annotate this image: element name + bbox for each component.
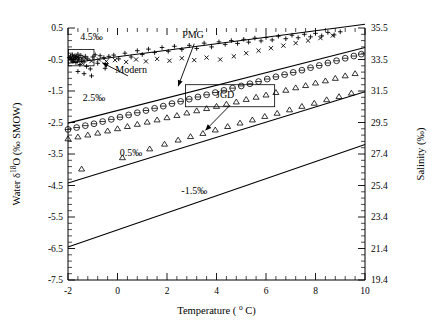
mixing-line-1 <box>68 48 365 124</box>
xy-plot: 4.5‰2.5‰0.5‰-1.5‰PMGJGDModern -20246810 … <box>0 0 434 326</box>
y2-axis-title: Salinity (‰) <box>415 127 427 180</box>
mixing-line-2 <box>68 92 365 183</box>
svg-text:4: 4 <box>214 286 219 296</box>
y2-tick-labels: 35.533.531.529.527.425.423.421.419.4 <box>371 23 388 285</box>
svg-text:25.4: 25.4 <box>371 181 388 191</box>
label-pmg: PMG <box>182 29 204 40</box>
mixing-lines <box>68 24 365 247</box>
label-jgd: JGD <box>216 89 234 100</box>
series-modern <box>67 29 343 78</box>
x-tick-labels: -20246810 <box>64 286 370 296</box>
svg-text:23.4: 23.4 <box>371 212 388 222</box>
svg-text:31.5: 31.5 <box>371 86 388 96</box>
series-pmg <box>65 51 364 132</box>
svg-text:-2.5: -2.5 <box>48 118 63 128</box>
svg-text:-3.5: -3.5 <box>48 149 63 159</box>
mixing-line-3 <box>68 145 365 247</box>
y-axis-title: Water δ18O (‰ SMOW) <box>9 102 24 205</box>
top-axis-ticks <box>68 28 365 35</box>
svg-text:35.5: 35.5 <box>371 23 388 33</box>
svg-text:27.4: 27.4 <box>371 149 388 159</box>
svg-text:-2: -2 <box>64 286 72 296</box>
pmg-arrow <box>178 44 194 87</box>
svg-text:21.4: 21.4 <box>371 244 388 254</box>
svg-text:8: 8 <box>313 286 318 296</box>
svg-text:2: 2 <box>165 286 170 296</box>
secondary-y-axis-ticks <box>358 28 365 280</box>
svg-text:0: 0 <box>115 286 120 296</box>
label-4.5‰: 4.5‰ <box>80 31 103 42</box>
x-axis-title: Temperature ( o C) <box>177 303 256 318</box>
pmg-arrow-head <box>178 80 183 86</box>
svg-text:6: 6 <box>264 286 269 296</box>
y-tick-labels: 0.5-0.5-1.5-2.5-3.5-4.5-5.5-6.5-7.5 <box>48 23 63 285</box>
svg-text:-7.5: -7.5 <box>48 275 63 285</box>
axis-titles: Temperature ( o C) Water δ18O (‰ SMOW) S… <box>9 102 428 317</box>
svg-text:0.5: 0.5 <box>51 23 63 33</box>
label--1.5‰: -1.5‰ <box>181 185 207 196</box>
label-modern: Modern <box>115 64 147 75</box>
svg-text:-4.5: -4.5 <box>48 181 63 191</box>
svg-text:10: 10 <box>360 286 370 296</box>
x-axis-ticks <box>68 273 365 280</box>
svg-text:33.5: 33.5 <box>371 55 388 65</box>
label-2.5‰: 2.5‰ <box>83 92 106 103</box>
svg-text:-5.5: -5.5 <box>48 212 63 222</box>
svg-text:-0.5: -0.5 <box>48 55 63 65</box>
figure-canvas: 4.5‰2.5‰0.5‰-1.5‰PMGJGDModern -20246810 … <box>0 0 434 326</box>
svg-text:-1.5: -1.5 <box>48 86 63 96</box>
svg-text:-6.5: -6.5 <box>48 244 63 254</box>
svg-text:19.4: 19.4 <box>371 275 388 285</box>
label-0.5‰: 0.5‰ <box>120 147 143 158</box>
svg-text:29.5: 29.5 <box>371 118 388 128</box>
data-point-markers <box>65 29 364 171</box>
series-labels: 4.5‰2.5‰0.5‰-1.5‰PMGJGDModern <box>80 29 234 196</box>
